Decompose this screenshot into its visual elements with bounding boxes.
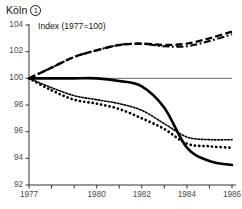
series-fine-dotted <box>29 78 232 140</box>
x-axis-tick-label: 1980 <box>82 190 112 199</box>
y-axis-tick-label: 92 <box>3 180 23 189</box>
chart-figure: Köln1 Index (1977=100) 92949698100102104… <box>0 0 242 209</box>
series-group <box>29 32 232 165</box>
y-axis-tick-label: 98 <box>3 100 23 109</box>
x-axis-tick-label: 1977 <box>14 190 44 199</box>
chart-subtitle: Index (1977=100) <box>38 21 106 31</box>
y-axis-tick-label: 94 <box>3 153 23 162</box>
line-chart-svg <box>0 0 242 209</box>
series-bold-dotted <box>29 78 232 147</box>
x-axis-tick-label: 1986 <box>217 190 242 199</box>
y-axis-tick-label: 102 <box>3 46 23 55</box>
x-axis-tick-label: 1982 <box>127 190 157 199</box>
plot-area <box>0 0 242 209</box>
y-axis-tick-label: 104 <box>3 20 23 29</box>
y-axis-tick-label: 96 <box>3 126 23 135</box>
y-axis-tick-label: 100 <box>3 73 23 82</box>
series-dashed-upper <box>29 32 232 79</box>
x-axis-tick-label: 1984 <box>172 190 202 199</box>
